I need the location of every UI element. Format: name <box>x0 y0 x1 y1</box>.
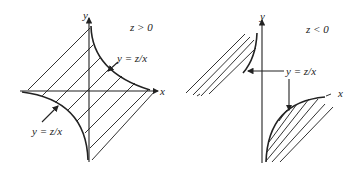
left-curve-label-upper: y = z/x <box>116 52 147 64</box>
right-x-label: x <box>337 87 343 99</box>
left-arrow-lower <box>42 106 58 122</box>
right-curve-label: y = z/x <box>285 65 316 77</box>
right-upper-hatching <box>186 34 256 96</box>
left-x-label: x <box>159 85 165 97</box>
right-curve-upper <box>243 33 257 73</box>
left-arrow-upper <box>108 62 118 71</box>
left-boundary-lower-right <box>92 91 155 160</box>
right-curve-tick <box>326 94 331 96</box>
right-panel: y x z < 0 y = z/x <box>186 10 343 163</box>
left-boundary-upper-left <box>28 28 90 90</box>
left-condition-label: z > 0 <box>129 21 153 33</box>
right-condition-label: z < 0 <box>305 23 329 35</box>
figure-canvas: x y z > 0 y = z/x y = z/x <box>0 0 356 175</box>
right-lower-hatching <box>266 99 333 162</box>
left-y-label: y <box>82 9 88 21</box>
left-curve-label-lower: y = z/x <box>31 125 62 137</box>
right-y-label: y <box>259 10 265 22</box>
left-panel: x y z > 0 y = z/x y = z/x <box>0 8 200 175</box>
